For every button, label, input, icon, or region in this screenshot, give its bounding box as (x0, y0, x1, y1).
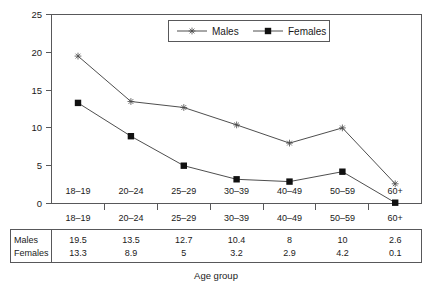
table-cell: 10.4 (228, 235, 246, 245)
legend: Males Females (169, 21, 330, 42)
table-cell: 13.5 (122, 235, 140, 245)
y-tick-label: 5 (37, 160, 42, 171)
legend-entry-females: Females (253, 26, 326, 37)
legend-entry-males: Males (177, 26, 239, 37)
x-inner-label: 18–19 (65, 186, 90, 196)
data-table: Males Females 19.5 13.5 12.7 10.4 8 10 2… (11, 230, 422, 263)
series-markers-males (75, 53, 399, 188)
table-cell: 3.2 (230, 248, 243, 258)
x-outer-label: 50–59 (330, 213, 355, 223)
table-cell: 5 (181, 248, 186, 258)
y-tick-label: 10 (31, 122, 42, 133)
x-outer-label: 25–29 (171, 213, 196, 223)
y-axis-tick-labels: 25 20 15 10 5 0 (31, 9, 42, 209)
star-icon (189, 28, 196, 35)
legend-label-males: Males (212, 26, 239, 37)
table-cell: 10 (337, 235, 347, 245)
table-cell: 2.9 (283, 248, 296, 258)
x-axis-title: Age group (194, 270, 238, 281)
square-icon (181, 163, 187, 169)
star-icon (286, 140, 293, 147)
y-tick-label: 25 (31, 9, 42, 20)
x-inner-label: 30–39 (224, 186, 249, 196)
table-row-label: Males (14, 235, 39, 245)
y-tick-label: 15 (31, 85, 42, 96)
table-row: 19.5 13.5 12.7 10.4 8 10 2.6 (69, 235, 401, 245)
square-icon (233, 176, 239, 182)
x-axis-inner-labels: 18–19 20–24 25–29 30–39 40–49 50–59 60+ (65, 186, 402, 196)
table-row-label: Females (14, 248, 49, 258)
table-cell: 8.9 (125, 248, 138, 258)
plot-area-frame (52, 15, 422, 204)
x-inner-label: 25–29 (171, 186, 196, 196)
series-line-males (78, 56, 395, 184)
x-inner-label: 40–49 (277, 186, 302, 196)
table-cell: 19.5 (69, 235, 87, 245)
x-outer-label: 60+ (388, 213, 403, 223)
y-tick-label: 20 (31, 47, 42, 58)
table-cell: 4.2 (336, 248, 349, 258)
square-icon (286, 178, 292, 184)
legend-label-females: Females (288, 26, 326, 37)
line-chart-svg: 25 20 15 10 5 0 (0, 0, 436, 288)
x-outer-label: 30–39 (224, 213, 249, 223)
star-icon (233, 122, 240, 129)
x-inner-label: 20–24 (118, 186, 143, 196)
table-row: 13.3 8.9 5 3.2 2.9 4.2 0.1 (69, 248, 401, 258)
x-outer-label: 20–24 (118, 213, 143, 223)
table-cell: 12.7 (175, 235, 193, 245)
x-inner-label: 60+ (388, 186, 403, 196)
x-axis-outer-labels: 18–19 20–24 25–29 30–39 40–49 50–59 60+ (65, 213, 402, 223)
y-tick-label: 0 (37, 198, 42, 209)
square-icon (128, 133, 134, 139)
square-icon (265, 28, 271, 34)
chart-figure: 25 20 15 10 5 0 (0, 0, 436, 288)
x-outer-label: 40–49 (277, 213, 302, 223)
table-cell: 2.6 (389, 235, 402, 245)
y-axis-ticks (46, 15, 52, 204)
star-icon (128, 98, 135, 105)
star-icon (180, 104, 187, 111)
table-cell: 0.1 (389, 248, 402, 258)
x-inner-label: 50–59 (330, 186, 355, 196)
x-outer-label: 18–19 (65, 213, 90, 223)
square-icon (339, 169, 345, 175)
x-axis-ticks (104, 204, 368, 210)
star-icon (75, 53, 82, 60)
square-icon (75, 100, 81, 106)
star-icon (339, 125, 346, 132)
table-cell: 13.3 (69, 248, 87, 258)
table-cell: 8 (287, 235, 292, 245)
square-icon (392, 200, 398, 206)
